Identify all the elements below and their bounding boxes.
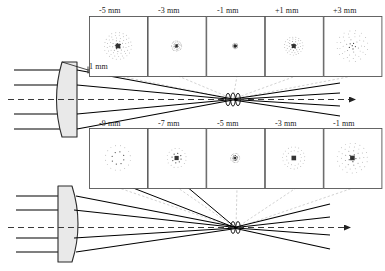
spot-dot [339, 48, 340, 49]
spot-dot [341, 158, 342, 159]
spot-dot [113, 52, 114, 53]
spot-dot [109, 39, 110, 40]
spot-dot [300, 166, 301, 167]
spot-dot [298, 148, 299, 149]
spot-dot [112, 46, 113, 47]
spot-dot [289, 51, 290, 52]
spot-dot [107, 150, 108, 151]
spot-dot [295, 41, 296, 42]
spot-core [292, 44, 296, 48]
spot-dot [239, 159, 240, 160]
spot-dot [347, 172, 348, 173]
spot-dot [300, 40, 301, 41]
spot-dot [125, 53, 126, 54]
spot-dot [358, 56, 359, 57]
spot-dot [294, 52, 295, 53]
spot-dot [290, 168, 291, 169]
spot-dot [337, 42, 338, 43]
spot-dot [119, 35, 120, 36]
spot-dot [123, 36, 124, 37]
spot-dot [284, 47, 285, 48]
spot-dot [233, 153, 234, 154]
spot-dot [304, 160, 305, 161]
spot-dot [233, 155, 234, 156]
spot-dot [234, 162, 235, 163]
spot-dot [337, 48, 338, 49]
spot-dot [348, 164, 349, 165]
spot-dot [181, 48, 182, 49]
spot-dot [230, 157, 231, 158]
spot-dot [175, 50, 176, 51]
spot-dot [353, 43, 354, 44]
spot-dot [303, 153, 304, 154]
spot-dot [167, 155, 168, 156]
spot-dot [107, 47, 108, 48]
spot-dot [181, 46, 182, 47]
spot-dot [290, 49, 291, 50]
spot-dot [107, 43, 108, 44]
spot-box-bottom-1 [148, 129, 206, 189]
spot-box-bottom-3 [265, 129, 323, 189]
spot-dot [235, 155, 236, 156]
spot-dot [363, 40, 364, 41]
spot-dot [123, 46, 124, 47]
spot-dot [344, 40, 345, 41]
spot-box-frame [324, 17, 382, 77]
spot-dot [130, 155, 131, 156]
spot-dot [349, 61, 350, 62]
spot-dot [236, 162, 237, 163]
spot-dot [360, 166, 361, 167]
spot-dot [171, 156, 172, 157]
spot-dot [299, 49, 300, 50]
spot-dot [365, 37, 366, 38]
spot-dot [355, 158, 356, 159]
spot-dot [364, 46, 365, 47]
spot-label-top-2: -1 mm [217, 6, 239, 15]
spot-dot [301, 51, 302, 52]
spot-dot [171, 165, 172, 166]
spot-dot [182, 150, 183, 151]
spot-dot [342, 163, 343, 164]
spot-dot [289, 37, 290, 38]
spot-dot [105, 42, 106, 43]
spot-dot [349, 31, 350, 32]
spot-dot [128, 38, 129, 39]
spot-dot [364, 166, 365, 167]
spot-dot [300, 154, 301, 155]
spot-core [350, 156, 355, 161]
spot-box-bottom-4 [324, 129, 382, 189]
spot-dot [111, 33, 112, 34]
spot-dot [177, 49, 178, 50]
spot-dot [180, 45, 181, 46]
spot-dot [122, 43, 123, 44]
optical-diagram-figure: 1 mm -5 mm -3 mm -1 mm +1 mm +3 mm -9 mm… [0, 0, 385, 271]
spot-dot [337, 161, 338, 162]
spot-dot [123, 40, 124, 41]
spot-dot [360, 51, 361, 52]
spot-dot [235, 43, 236, 44]
spot-core [234, 45, 236, 47]
spot-dot [126, 35, 127, 36]
spot-dot [345, 155, 346, 156]
spot-dot [180, 43, 181, 44]
spot-dot [347, 57, 348, 58]
spot-dot [342, 153, 343, 154]
spot-dot [127, 50, 128, 51]
spot-dot [104, 50, 105, 51]
spot-box-frame [90, 129, 148, 189]
spot-box-top-3 [265, 17, 323, 77]
spot-dot [232, 46, 233, 47]
spot-dot [355, 61, 356, 62]
spot-dot [345, 149, 346, 150]
spot-dot [180, 49, 181, 50]
spot-dot [185, 153, 186, 154]
spot-dot [109, 46, 110, 47]
spot-dot [350, 43, 351, 44]
spot-dot [343, 46, 344, 47]
spot-dot [343, 58, 344, 59]
spot-dot [237, 157, 238, 158]
spot-dot [349, 37, 350, 38]
spot-dot [239, 156, 240, 157]
spot-dot [288, 153, 289, 154]
spot-dot [123, 58, 124, 59]
